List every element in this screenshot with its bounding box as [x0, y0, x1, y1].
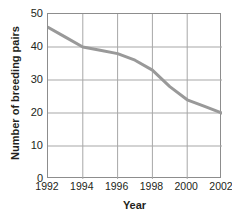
plot-svg [48, 14, 222, 179]
data-line-breeding-pairs [48, 27, 222, 113]
x-tick-label-2002: 2002 [201, 181, 232, 192]
x-axis-label: Year [47, 199, 222, 211]
y-tick-label-50: 50 [7, 8, 43, 19]
y-tick-label-20: 20 [7, 107, 43, 118]
y-tick-label-10: 10 [7, 140, 43, 151]
plot-area [47, 13, 221, 178]
chart-figure: in the Protection Area Number of breedin… [0, 0, 232, 218]
vertical-gridlines [83, 14, 187, 179]
y-tick-label-40: 40 [7, 41, 43, 52]
chart-title: in the Protection Area [0, 0, 232, 2]
y-tick-label-30: 30 [7, 74, 43, 85]
